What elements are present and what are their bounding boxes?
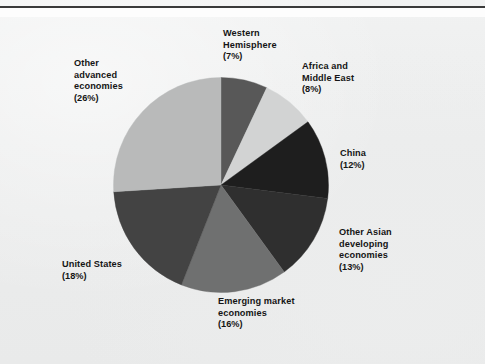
- slice-label-percent: (12%): [340, 160, 366, 172]
- slice-label-emerging-market-economies: Emerging market economies (16%): [218, 296, 295, 331]
- slice-label-line: Other Asian: [339, 227, 392, 239]
- slice-label-line: United States: [62, 259, 122, 271]
- slice-label-line: Africa and: [302, 61, 354, 73]
- slice-label-line: economies: [218, 308, 295, 320]
- slice-label-percent: (18%): [62, 271, 122, 283]
- slice-label-africa-middle-east: Africa and Middle East (8%): [302, 61, 354, 96]
- slice-label-percent: (26%): [74, 93, 123, 105]
- slice-label-line: Emerging market: [218, 296, 295, 308]
- pie-slice: [113, 77, 221, 191]
- slice-label-percent: (13%): [339, 262, 392, 274]
- pie-slices: [113, 77, 328, 292]
- slice-label-line: Other: [74, 58, 123, 70]
- slice-label-other-advanced-economies: Other advanced economies (26%): [74, 58, 123, 104]
- slice-label-line: economies: [339, 250, 392, 262]
- slice-label-other-asian-developing-economies: Other Asian developing economies (13%): [339, 227, 392, 273]
- slice-label-percent: (8%): [302, 84, 354, 96]
- slice-label-china: China (12%): [340, 148, 366, 171]
- page-top-margin: [0, 8, 485, 17]
- pie-svg: [113, 77, 329, 293]
- slice-label-line: Western: [223, 28, 277, 40]
- slice-label-line: Hemisphere: [223, 40, 277, 52]
- pie-chart-figure: Western Hemisphere (7%) Africa and Middl…: [0, 0, 485, 364]
- slice-label-line: economies: [74, 81, 123, 93]
- slice-label-line: developing: [339, 239, 392, 251]
- slice-label-line: Middle East: [302, 73, 354, 85]
- slice-label-line: China: [340, 148, 366, 160]
- slice-label-western-hemisphere: Western Hemisphere (7%): [223, 28, 277, 63]
- pie-graphic: [113, 77, 329, 293]
- horizontal-rule: [0, 6, 485, 8]
- slice-label-united-states: United States (18%): [62, 259, 122, 282]
- slice-label-line: advanced: [74, 70, 123, 82]
- slice-label-percent: (16%): [218, 319, 295, 331]
- slice-label-percent: (7%): [223, 51, 277, 63]
